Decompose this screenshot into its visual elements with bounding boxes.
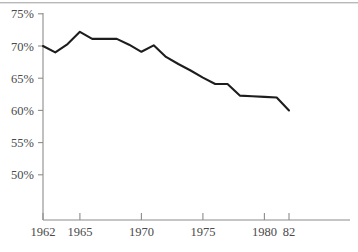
y-axis-tick-labels: 50%55%60%65%70%75% <box>11 7 34 182</box>
data-series-group <box>43 32 289 111</box>
chart-plot-area: 50%55%60%65%70%75% 196219651970197519808… <box>0 0 358 252</box>
y-axis: 50%55%60%65%70%75% <box>11 7 43 220</box>
x-axis: 1962196519701975198082 <box>31 213 351 239</box>
y-axis-tick-label: 60% <box>11 104 34 118</box>
y-axis-tick-label: 75% <box>11 7 34 21</box>
data-line-percent <box>43 32 289 111</box>
y-axis-tick-label: 50% <box>11 168 34 182</box>
x-axis-ticks <box>43 213 289 220</box>
y-axis-ticks <box>38 14 43 175</box>
x-axis-tick-label: 1980 <box>252 225 277 239</box>
x-axis-tick-label: 1975 <box>190 225 215 239</box>
line-chart-figure: 50%55%60%65%70%75% 196219651970197519808… <box>0 0 358 252</box>
x-axis-tick-label: 1970 <box>129 225 154 239</box>
x-axis-tick-label: 1962 <box>31 225 56 239</box>
y-axis-tick-label: 65% <box>11 72 34 86</box>
y-axis-tick-label: 70% <box>11 40 34 54</box>
y-axis-tick-label: 55% <box>11 136 34 150</box>
x-axis-tick-label: 1965 <box>67 225 92 239</box>
x-axis-tick-labels: 1962196519701975198082 <box>31 225 296 239</box>
x-axis-tick-label: 82 <box>283 225 296 239</box>
